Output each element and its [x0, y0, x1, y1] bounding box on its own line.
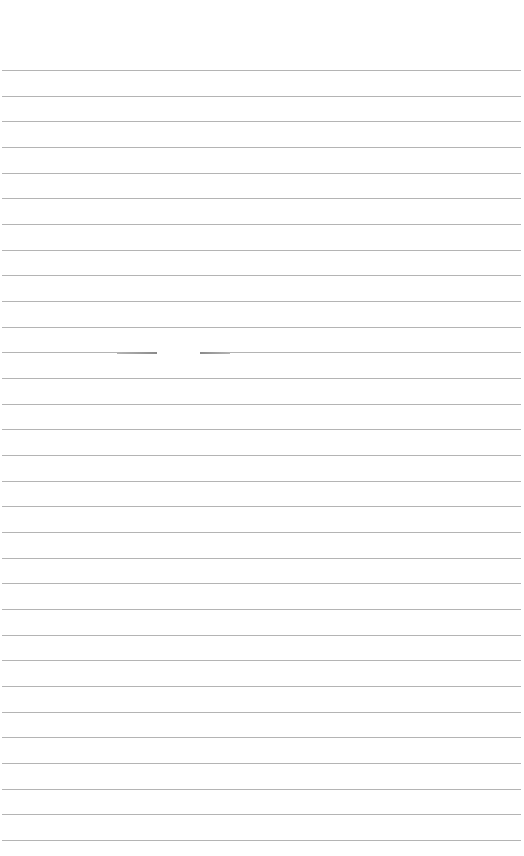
ruled-line: [2, 429, 521, 430]
ruled-line: [2, 814, 521, 815]
ruled-line: [2, 506, 521, 507]
ruled-line: [2, 635, 521, 636]
ruled-line-segment: [2, 352, 117, 353]
ruled-line: [2, 198, 521, 199]
ruled-line: [2, 686, 521, 687]
ruled-line: [2, 481, 521, 482]
ruled-line: [2, 250, 521, 251]
ruled-line: [2, 840, 521, 841]
ruled-line: [2, 712, 521, 713]
ruled-line: [2, 558, 521, 559]
ruled-line: [2, 378, 521, 379]
ruled-line: [2, 532, 521, 533]
ruled-line: [2, 609, 521, 610]
ruled-line: [2, 301, 521, 302]
ruled-line: [2, 173, 521, 174]
ruled-line: [2, 327, 521, 328]
ruled-line-smudge: [117, 352, 157, 354]
ruled-line: [2, 583, 521, 584]
ruled-line: [2, 224, 521, 225]
ruled-line-smudge: [200, 352, 230, 354]
ruled-line: [2, 70, 521, 71]
ruled-line: [2, 737, 521, 738]
ruled-line: [2, 455, 521, 456]
ruled-line: [2, 789, 521, 790]
ruled-line: [2, 404, 521, 405]
ruled-line: [2, 96, 521, 97]
ruled-line-segment: [230, 352, 521, 353]
ruled-line: [2, 147, 521, 148]
ruled-line: [2, 121, 521, 122]
ruled-line: [2, 275, 521, 276]
lined-paper-page: [0, 0, 524, 856]
ruled-line: [2, 660, 521, 661]
ruled-line: [2, 763, 521, 764]
